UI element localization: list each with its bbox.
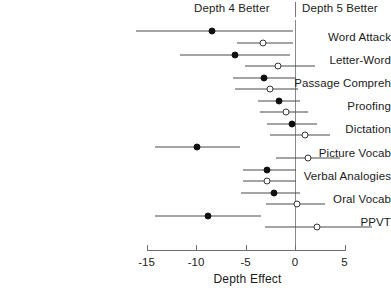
x-axis-title-text: Depth Effect xyxy=(213,272,281,286)
point-marker-filled-4 xyxy=(289,120,296,127)
point-marker-filled-0 xyxy=(208,28,215,35)
depth4-better-label: Depth 4 Better xyxy=(194,2,270,14)
x-axis-title: Depth Effect xyxy=(0,272,391,286)
x-tick-4 xyxy=(345,245,346,251)
point-marker-open-4 xyxy=(301,132,308,139)
x-tick-2 xyxy=(246,245,247,251)
confidence-interval-open-4 xyxy=(270,135,329,136)
x-tick-label-4: 5 xyxy=(341,256,347,268)
forest-plot: Depth 4 Better Depth 5 Better Word Attac… xyxy=(0,0,391,301)
point-marker-filled-8 xyxy=(204,213,211,220)
point-marker-open-3 xyxy=(283,108,290,115)
x-tick-0 xyxy=(147,245,148,251)
depth5-better-label: Depth 5 Better xyxy=(302,2,378,14)
x-tick-3 xyxy=(295,245,296,251)
point-marker-filled-3 xyxy=(276,97,283,104)
point-marker-open-8 xyxy=(313,224,320,231)
point-marker-filled-6 xyxy=(264,167,271,174)
point-marker-filled-2 xyxy=(261,74,268,81)
point-marker-open-2 xyxy=(267,85,274,92)
x-tick-label-3: 0 xyxy=(292,256,298,268)
point-marker-open-1 xyxy=(275,62,282,69)
x-tick-label-2: -5 xyxy=(240,256,250,268)
point-marker-open-6 xyxy=(264,178,271,185)
point-marker-open-0 xyxy=(260,39,267,46)
point-marker-filled-1 xyxy=(231,51,238,58)
point-marker-open-7 xyxy=(293,201,300,208)
point-marker-open-5 xyxy=(304,155,311,162)
point-marker-filled-5 xyxy=(193,143,200,150)
x-tick-label-1: -10 xyxy=(188,256,205,268)
x-tick-1 xyxy=(196,245,197,251)
point-marker-filled-7 xyxy=(271,190,278,197)
header-divider xyxy=(295,2,296,17)
x-tick-label-0: -15 xyxy=(138,256,155,268)
